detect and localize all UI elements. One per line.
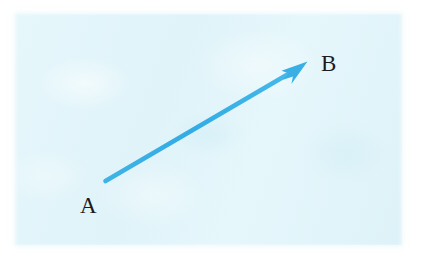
figure-root: A B (0, 0, 426, 257)
vector-arrowhead (282, 62, 308, 84)
point-label-a: A (80, 194, 97, 217)
vector-diagram-svg (0, 0, 426, 257)
vector-shaft (106, 70, 297, 182)
point-label-b: B (321, 52, 337, 75)
